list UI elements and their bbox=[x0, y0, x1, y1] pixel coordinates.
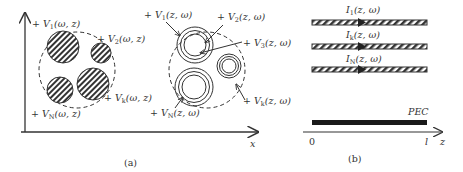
label-v1-right: + V1(z, ω) bbox=[144, 9, 192, 22]
conductor-N-hatched bbox=[47, 77, 73, 103]
pointer-v1 bbox=[166, 22, 180, 36]
length-label: l bbox=[425, 136, 428, 147]
left-conductor-group: + V1(ω, z) + V2(ω, z) + Vk(ω, z) + VN(ω,… bbox=[31, 18, 152, 121]
line-conductor-k: Ik(z, ω) bbox=[312, 29, 427, 51]
label-iN: IN(z, ω) bbox=[345, 53, 382, 66]
pec-label: PEC bbox=[407, 106, 429, 117]
panel-a: x (a) + V1(ω, z) + V2(ω, z) + Vk(ω, z) +… bbox=[21, 9, 291, 168]
label-vk-left: + Vk(ω, z) bbox=[104, 92, 152, 105]
caption-a: (a) bbox=[124, 157, 137, 168]
panel-b: I1(z, ω) Ik(z, ω) IN(z, ω) PEC 0 l z (b) bbox=[303, 4, 446, 164]
current-arrow-1-icon bbox=[358, 18, 366, 27]
origin-label: 0 bbox=[309, 136, 315, 147]
current-arrow-k-icon bbox=[358, 42, 366, 51]
label-vN-right: + VN(z, ω) bbox=[150, 107, 200, 120]
coax-conductor-3 bbox=[217, 54, 241, 78]
label-vN-left: + VN(ω, z) bbox=[31, 108, 81, 121]
pec-ground-plane bbox=[312, 120, 427, 125]
label-v1-left: + V1(ω, z) bbox=[32, 18, 80, 31]
current-arrow-N-icon bbox=[358, 65, 366, 74]
figure-canvas: x (a) + V1(ω, z) + V2(ω, z) + Vk(ω, z) +… bbox=[0, 0, 463, 172]
coax-conductor-1 bbox=[177, 27, 213, 63]
label-vk-right: + Vk(z, ω) bbox=[243, 95, 291, 108]
conductor-1-hatched bbox=[47, 31, 79, 63]
x-axis-label: x bbox=[250, 138, 256, 149]
line-conductor-N: IN(z, ω) bbox=[312, 53, 427, 74]
conductor-2-hatched bbox=[91, 43, 111, 63]
caption-b: (b) bbox=[348, 153, 362, 164]
label-ik: Ik(z, ω) bbox=[345, 29, 380, 42]
z-axis-label: z bbox=[439, 136, 446, 147]
line-conductor-1: I1(z, ω) bbox=[312, 4, 427, 27]
right-conductor-group: + V1(z, ω) + V2(z, ω) + V3(z, ω) + Vk(z,… bbox=[144, 9, 291, 120]
label-v3-right: + V3(z, ω) bbox=[243, 37, 291, 50]
label-i1: I1(z, ω) bbox=[345, 4, 380, 17]
label-v2-right: + V2(z, ω) bbox=[217, 11, 265, 24]
